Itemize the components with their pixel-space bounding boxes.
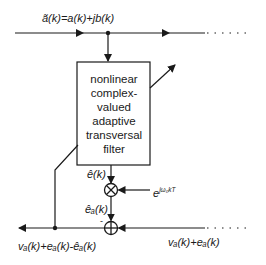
error-feedback-line <box>55 145 78 228</box>
adaptation-arrow <box>150 65 175 88</box>
input-signal-label: ã(k)=a(k)+jb(k) <box>42 12 114 24</box>
minus-sign: - <box>100 215 103 227</box>
input-signal-line <box>15 29 250 61</box>
arrow-icon <box>162 29 170 37</box>
output-label: vₐ(k)+eₐ(k)-êₐ(k) <box>18 240 96 252</box>
phase-rotation-label: ejω₀kT <box>153 184 176 199</box>
filter-output-label: ê(k) <box>87 168 106 180</box>
filter-label: nonlinear complex- valued adaptive trans… <box>78 72 150 156</box>
right-input-label: vₐ(k)+eₐ(k) <box>168 236 220 248</box>
rotated-estimate-label: êₐ(k) <box>85 203 108 215</box>
arrow-icon <box>76 29 84 37</box>
multiplier-node <box>105 184 118 197</box>
summing-node <box>105 222 118 235</box>
